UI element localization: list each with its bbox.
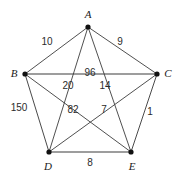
edge-b-d bbox=[25, 74, 49, 152]
edge-c-d bbox=[49, 74, 157, 152]
vertex-node-d bbox=[46, 149, 51, 154]
vertex-node-e bbox=[128, 149, 133, 154]
edge-a-c bbox=[88, 27, 157, 74]
edge-b-e bbox=[25, 74, 131, 152]
vertex-node-c bbox=[154, 71, 159, 76]
graph-canvas bbox=[0, 0, 177, 176]
vertex-node-a bbox=[85, 24, 90, 29]
vertices-group bbox=[22, 24, 159, 154]
weighted-graph-diagram: 10996201415082718ABCDE bbox=[0, 0, 177, 176]
edge-a-e bbox=[88, 27, 131, 152]
vertex-node-b bbox=[22, 71, 27, 76]
edge-c-e bbox=[131, 74, 157, 152]
edges-group bbox=[25, 27, 157, 152]
edge-a-b bbox=[25, 27, 88, 74]
edge-a-d bbox=[49, 27, 88, 152]
